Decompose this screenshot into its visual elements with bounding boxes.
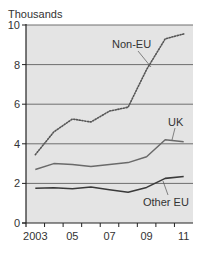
non-eu-label: Non-EU bbox=[112, 38, 151, 50]
y-axis-ticks: 0246810 bbox=[8, 19, 26, 229]
line-chart: 0246810 200305070911 Thousands Non-EU UK… bbox=[0, 0, 204, 254]
x-tick-label: 2003 bbox=[23, 230, 47, 242]
other-eu-label: Other EU bbox=[143, 196, 189, 208]
y-tick-label: 10 bbox=[8, 19, 20, 31]
x-tick-label: 09 bbox=[140, 230, 152, 242]
y-tick-label: 6 bbox=[14, 98, 20, 110]
x-tick-label: 11 bbox=[178, 230, 189, 242]
y-axis-label: Thousands bbox=[8, 8, 63, 20]
y-tick-label: 8 bbox=[14, 59, 20, 71]
uk-label: UK bbox=[168, 116, 184, 128]
x-tick-label: 07 bbox=[103, 230, 115, 242]
y-tick-label: 4 bbox=[14, 138, 20, 150]
x-tick-label: 05 bbox=[66, 230, 78, 242]
chart-canvas: 0246810 200305070911 Thousands Non-EU UK… bbox=[0, 0, 204, 254]
y-tick-label: 0 bbox=[14, 217, 20, 229]
x-axis-ticks: 200305070911 bbox=[23, 223, 189, 242]
y-tick-label: 2 bbox=[14, 177, 20, 189]
